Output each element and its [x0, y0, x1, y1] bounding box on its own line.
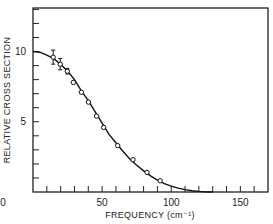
data-point-circle: [79, 90, 83, 94]
data-point-circle: [65, 69, 69, 73]
y-axis-tick-labels: 510: [15, 46, 27, 127]
data-point-circle: [71, 80, 75, 84]
data-point-circle: [94, 114, 98, 118]
y-tick-label: 10: [15, 46, 27, 57]
x-tick-label: 100: [163, 197, 180, 208]
x-axis-label: FREQUENCY (cm⁻¹): [105, 210, 195, 220]
data-point-circle: [101, 125, 105, 129]
x-axis-tick-labels: 050100150: [0, 197, 249, 208]
data-point-circle: [131, 157, 135, 161]
data-point-circle: [86, 100, 90, 104]
y-axis-label: RELATIVE CROSS SECTION: [2, 37, 12, 163]
x-axis-ticks: [47, 186, 254, 192]
data-point-circle: [158, 179, 162, 183]
x-tick-label: 150: [232, 197, 249, 208]
data-points: [51, 50, 162, 183]
data-point-circle: [58, 62, 62, 66]
x-tick-label: 0: [0, 197, 6, 208]
data-point-circle: [51, 55, 55, 59]
y-axis-ticks: [33, 9, 39, 178]
data-point-circle: [116, 143, 120, 147]
chart: 050100150 510 FREQUENCY (cm⁻¹) RELATIVE …: [0, 0, 273, 224]
fit-curve: [33, 52, 213, 193]
data-point-circle: [145, 170, 149, 174]
x-tick-label: 50: [97, 197, 109, 208]
plot-frame: [33, 8, 268, 192]
y-tick-label: 5: [20, 116, 26, 127]
